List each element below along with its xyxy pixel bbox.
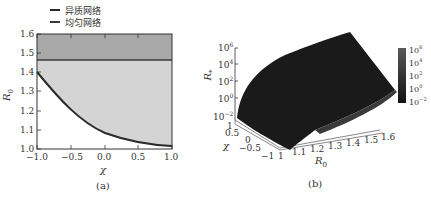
z-tick-label: 100: [218, 93, 233, 104]
x-axis-label: χ: [100, 164, 106, 175]
colorbar-label: 102: [409, 71, 422, 81]
x-tick-label: 0.0: [97, 153, 111, 162]
x-tick-label: 0.5: [131, 153, 145, 162]
colorbar-label: 106: [409, 45, 422, 55]
chi-axis-label: χ: [223, 140, 229, 151]
r0-tick-label: 1.6: [381, 133, 395, 142]
y-tick-label: 1.6: [20, 30, 34, 39]
r0-tick-label: 1: [278, 152, 284, 161]
colorbar-label: 100: [409, 84, 422, 94]
y-tick-label: 1.2: [20, 107, 34, 116]
panel-a: 异质网络 均匀网络 1.6: [0, 0, 215, 198]
y-tick-label: 1.5: [20, 49, 34, 58]
z-tick-label: 104: [218, 59, 233, 70]
chi-tick-label: −1: [261, 152, 274, 161]
chi-tick-label: −0.5: [239, 144, 261, 153]
r0-tick-label: 1.5: [364, 136, 378, 145]
y-tick-label: 1.1: [20, 126, 34, 135]
y-tick-label: 1.4: [20, 68, 34, 77]
x-tick-label: −0.5: [61, 153, 83, 162]
r0-tick-label: 1.1: [292, 148, 306, 157]
y-axis-label: R0: [1, 89, 15, 101]
colorbar-label: 10−2: [409, 97, 427, 107]
colorbar: [398, 48, 406, 103]
z-tick-label: 102: [218, 76, 233, 87]
y-tick-label: 1.3: [20, 87, 34, 96]
panel-b: 106 104 102 100 10−2 R* 106 104 102 100 …: [215, 0, 431, 198]
r0-tick-label: 1.4: [346, 139, 360, 148]
x-tick-label: −1.0: [26, 153, 48, 162]
z-tick-label: 106: [218, 42, 233, 53]
chi-tick-label: 0.5: [225, 129, 239, 138]
x-tick-label: 1.0: [164, 153, 178, 162]
r0-tick-label: 1.3: [328, 142, 342, 151]
caption-a: (a): [96, 180, 110, 191]
r0-tick-label: 1.2: [310, 145, 324, 154]
caption-b: (b): [308, 178, 322, 189]
z-axis-label: R*: [202, 69, 216, 80]
r0-axis-label: R0: [315, 155, 327, 169]
colorbar-label: 104: [409, 58, 422, 68]
